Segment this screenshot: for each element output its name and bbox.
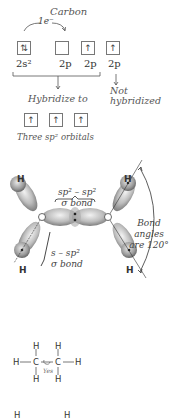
- cc-sigma-bond-label: sp² – sp² σ bond: [57, 187, 97, 209]
- not-hybridized-label: Not hybridized: [110, 86, 161, 106]
- bottom-h-2: H: [64, 410, 70, 420]
- orbital-label-2p-c: 2p: [108, 58, 121, 69]
- sp2-orbital-box-1: ↑: [24, 113, 38, 127]
- bond-angle-label: Bond angles are 120°: [121, 218, 177, 251]
- ethane-h-right: H: [75, 357, 81, 367]
- h-atom-top-left: H: [17, 174, 25, 184]
- bond-angle-line2: are 120°: [121, 240, 177, 251]
- ch-bond-line1: s – sp²: [51, 248, 83, 259]
- hybridize-label: Hybridize to: [28, 93, 88, 104]
- orbital-box-2s: ⇅: [17, 41, 31, 55]
- orbital-label-2s: 2s²: [16, 58, 32, 69]
- orbital-box-2p-1: ↑: [81, 41, 95, 55]
- ethane-h-bottom-2: H: [55, 374, 61, 384]
- h-atom-bottom-right: H: [126, 265, 134, 275]
- rotation-label: Yes: [43, 367, 53, 374]
- ethane-h-left: H: [13, 357, 19, 367]
- not-hybridized-line2: hybridized: [110, 96, 161, 106]
- ethane-c-2: C: [55, 357, 61, 367]
- ethane-c-1: C: [33, 357, 39, 367]
- promotion-label: 1e⁻: [38, 16, 54, 26]
- orbital-box-2p-empty: [55, 41, 69, 55]
- bond-angle-line1: Bond angles: [121, 218, 177, 240]
- ethane-h-top-1: H: [33, 341, 39, 351]
- ch-bond-line2: σ bond: [51, 259, 83, 270]
- orbital-box-2p-2: ↑: [106, 41, 120, 55]
- ch-sigma-bond-label: s – sp² σ bond: [51, 248, 83, 270]
- h-atom-top-right: H: [124, 174, 132, 184]
- sp2-orbitals-caption: Three sp² orbitals: [17, 132, 94, 142]
- h-atom-bottom-left: H: [19, 265, 27, 275]
- orbital-label-2p-a: 2p: [59, 58, 72, 69]
- bottom-h-1: H: [14, 410, 20, 420]
- orbital-label-2p-b: 2p: [84, 58, 97, 69]
- cc-bond-line2: σ bond: [57, 198, 97, 209]
- ethane-h-bottom-1: H: [33, 374, 39, 384]
- cc-bond-line1: sp² – sp²: [57, 187, 97, 198]
- sp2-orbital-box-3: ↑: [74, 113, 88, 127]
- ethane-h-top-2: H: [55, 341, 61, 351]
- sp2-orbital-box-2: ↑: [49, 113, 63, 127]
